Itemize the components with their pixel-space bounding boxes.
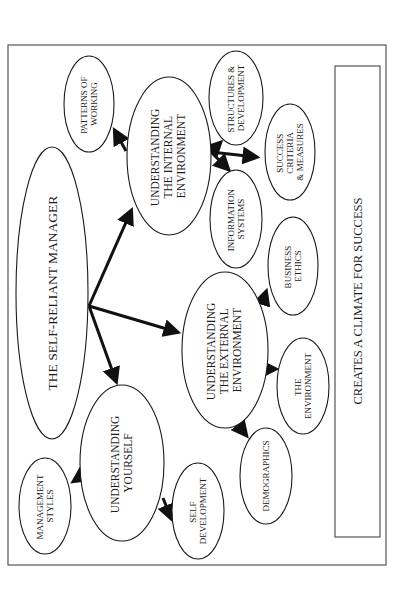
svg-text:SUCCESS CRITERIA &: SUCCESS CRITERIA & MEASURES <box>275 123 305 180</box>
node-understanding-yourself: UNDERSTANDING YOURSELF <box>80 385 164 541</box>
node-information-systems: INFORMATION SYSTEMS <box>210 170 262 268</box>
node-label-line-1: SELF <box>188 502 198 523</box>
node-label-line-1: BUSINESS <box>283 246 293 289</box>
node-label-line-2: DEVELOPMENT <box>236 64 246 131</box>
node-label-line-2: THE INTERNAL <box>162 116 174 199</box>
svg-text:PATTERNS OF WORKING: PATTERNS OF WORKING <box>79 74 99 134</box>
node-label: THE SELF-RELIANT MANAGER <box>45 196 60 391</box>
footer-label: CREATES A CLIMATE FOR SUCCESS <box>351 197 365 404</box>
arrow-root-yourself <box>89 306 116 381</box>
node-label-line-1: MANAGEMENT <box>35 474 45 539</box>
node-label-line-3: ENVIRONMENT <box>231 308 243 392</box>
node-business-ethics: BUSINESS ETHICS <box>268 217 318 315</box>
node-label-line-3: & MEASURES <box>295 123 305 180</box>
node-label-line-1: UNDERSTANDING <box>205 303 217 400</box>
node-label-line-2: SYSTEMS <box>236 199 246 240</box>
node-structures-development: STRUCTURES & DEVELOPMENT <box>209 51 263 145</box>
node-success-criteria-measures: SUCCESS CRITERIA & MEASURES <box>265 104 315 200</box>
node-understanding-external: UNDERSTANDING THE EXTERNAL ENVIRONMENT <box>182 272 268 428</box>
node-management-styles: MANAGEMENT STYLES <box>19 458 71 554</box>
node-label-line-2: YOURSELF <box>122 433 134 492</box>
node-label-line-2: DEVELOPMENT <box>198 477 208 544</box>
node-label-line-2: THE EXTERNAL <box>218 308 230 394</box>
node-label-line-1: UNDERSTANDING <box>149 109 161 206</box>
arrow-internal-patterns <box>115 131 126 151</box>
arrow-internal-success <box>211 152 256 157</box>
svg-text:STRUCTURES & DEVELOPMENT: STRUCTURES & DEVELOPMENT <box>226 63 246 132</box>
node-the-environment: THE ENVIRONMENT <box>277 338 329 434</box>
node-label-line-1: THE <box>293 378 303 396</box>
svg-text:DEMOGRAPHICS: DEMOGRAPHICS <box>261 440 271 511</box>
node-label-line-1: UNDERSTANDING <box>109 416 121 513</box>
node-self-reliant-manager: THE SELF-RELIANT MANAGER <box>16 147 88 439</box>
svg-text:UNDERSTANDING THE INTERN: UNDERSTANDING THE INTERNAL ENVIRONMENT <box>149 106 187 206</box>
node-label-line-2: WORKING <box>89 82 99 126</box>
arrow-external-demographics <box>238 425 246 435</box>
node-label-line-1: STRUCTURES & <box>226 66 236 133</box>
node-label-line-2: ENVIRONMENT <box>303 353 313 419</box>
node-label-line-1: PATTERNS OF <box>79 76 89 133</box>
node-label-line-1: INFORMATION <box>226 189 236 252</box>
node-understanding-internal: UNDERSTANDING THE INTERNAL ENVIRONMENT <box>127 77 211 235</box>
arrow-yourself-selfdev <box>163 498 171 518</box>
arrow-root-internal <box>89 211 131 306</box>
node-patterns-of-working: PATTERNS OF WORKING <box>64 56 114 152</box>
node-label-line-2: STYLES <box>45 489 55 522</box>
node-label-line-3: ENVIRONMENT <box>175 114 187 198</box>
svg-text:UNDERSTANDING THE EXTERN: UNDERSTANDING THE EXTERNAL ENVIRONMENT <box>205 300 243 400</box>
node-label: DEMOGRAPHICS <box>261 440 271 511</box>
node-label-line-2: CRITERIA <box>285 132 295 174</box>
svg-text:THE SELF-RELIANT MANAGER: THE SELF-RELIANT MANAGER <box>45 196 60 391</box>
mind-map-diagram: CREATES A CLIMATE FOR SUCCESS THE SELF-R… <box>0 0 407 590</box>
node-self-development: SELF DEVELOPMENT <box>172 463 224 559</box>
arrow-external-ethics <box>262 292 266 304</box>
arrow-root-external <box>89 306 177 332</box>
svg-text:BUSINESS ETHICS: BUSINESS ETHICS <box>283 244 303 289</box>
node-label-line-2: ETHICS <box>293 250 303 282</box>
node-label-line-1: SUCCESS <box>275 134 285 173</box>
node-demographics: DEMOGRAPHICS <box>240 428 292 524</box>
